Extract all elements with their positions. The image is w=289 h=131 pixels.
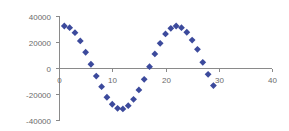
data-point-diamond <box>135 87 142 94</box>
data-point-diamond <box>66 24 73 31</box>
data-point-diamond <box>104 94 111 101</box>
data-point-diamond <box>146 63 153 70</box>
y-tick-label: 20000 <box>29 39 52 48</box>
data-point-diamond <box>162 31 169 38</box>
data-point-diamond <box>77 38 84 45</box>
data-point-diamond <box>189 37 196 44</box>
y-axis-ticks: 40000200000-20000-40000 <box>26 13 59 126</box>
data-point-diamond <box>151 51 158 58</box>
data-point-diamond <box>141 76 148 83</box>
plot-area: 40000200000-20000-40000 010203040 <box>26 13 277 126</box>
data-point-diamond <box>125 102 132 109</box>
data-point-diamond <box>205 71 212 78</box>
x-tick-label: 10 <box>108 76 117 85</box>
data-point-diamond <box>109 101 116 108</box>
data-point-diamond <box>82 49 89 56</box>
x-tick-label: 30 <box>215 76 224 85</box>
x-axis-ticks: 010203040 <box>57 69 277 85</box>
data-point-diamond <box>72 29 79 36</box>
data-point-diamond <box>114 105 121 112</box>
data-point-diamond <box>88 61 95 68</box>
data-point-diamond <box>194 46 201 53</box>
x-tick-label: 40 <box>268 76 277 85</box>
y-tick-label: -20000 <box>26 91 51 100</box>
data-point-diamond <box>178 24 185 31</box>
data-point-diamond <box>130 96 137 103</box>
data-point-diamond <box>93 73 100 80</box>
y-tick-label: 40000 <box>29 13 52 22</box>
data-point-diamond <box>183 29 190 36</box>
data-point-diamond <box>61 23 68 30</box>
data-point-diamond <box>199 59 206 66</box>
data-point-diamond <box>120 106 127 113</box>
data-point-diamond <box>98 83 105 90</box>
x-tick-label: 20 <box>162 76 171 85</box>
scatter-chart: 40000200000-20000-40000 010203040 <box>0 0 289 131</box>
data-point-diamond <box>157 40 164 47</box>
data-markers <box>61 23 217 113</box>
y-tick-label: -40000 <box>26 117 51 126</box>
y-tick-label: 0 <box>47 65 52 74</box>
x-tick-label: 0 <box>57 76 62 85</box>
